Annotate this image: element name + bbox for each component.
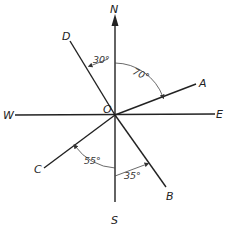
north-label: N [110,3,118,16]
angle-label-70: 70° [131,66,151,83]
east-label: E [216,108,223,121]
vector-c-label: C [34,163,42,176]
vector-c [44,115,115,168]
angle-label-55: 55° [84,155,101,166]
vector-d-label: D [62,30,70,43]
angle-label-35: 35° [124,170,141,181]
vector-a-label: A [198,77,207,90]
south-label: S [111,214,118,227]
angle-label-30: 30° [93,54,110,65]
origin-label: O [103,103,112,116]
vector-a [115,84,196,115]
vector-b-label: B [166,190,174,203]
vector-diagram: N S E W A B C D O 30° 70° 55° 35° [0,0,228,229]
west-label: W [3,109,15,122]
